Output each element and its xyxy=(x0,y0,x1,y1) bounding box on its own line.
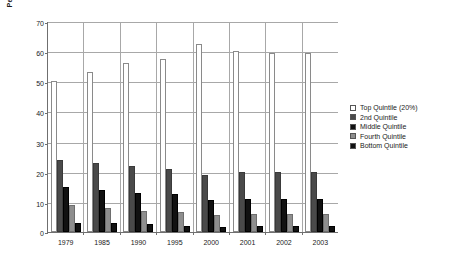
y-axis-tick-label: 30 xyxy=(36,140,44,147)
y-tick-mark xyxy=(45,233,48,234)
bar-group: 1990 xyxy=(121,22,157,232)
bar-groups: 19791985199019952000200120022003 xyxy=(48,22,338,232)
plot-area: 010203040506070 197919851990199520002001… xyxy=(47,22,338,233)
x-tick-mark xyxy=(265,232,266,235)
legend-swatch xyxy=(350,133,356,139)
x-tick-mark xyxy=(156,232,157,235)
x-tick-mark xyxy=(120,232,121,235)
legend-label: Middle Quintile xyxy=(360,123,406,130)
y-axis-tick-label: 40 xyxy=(36,110,44,117)
legend-label: Fourth Quintile xyxy=(360,133,406,140)
y-axis-title: Percentage xyxy=(6,0,13,52)
y-axis-tick-label: 0 xyxy=(40,230,44,237)
legend-label: Bottom Quintile xyxy=(360,142,408,149)
x-tick-mark xyxy=(302,232,303,235)
bar-group: 2002 xyxy=(266,22,302,232)
legend-swatch xyxy=(350,105,356,111)
x-axis-tick-label: 1979 xyxy=(58,239,74,246)
legend-swatch xyxy=(350,143,356,149)
legend-label: 2nd Quintile xyxy=(360,114,397,121)
x-axis-tick-label: 2003 xyxy=(313,239,329,246)
x-axis-tick-label: 2001 xyxy=(240,239,256,246)
bar-chart: Percentage 010203040506070 1979198519901… xyxy=(0,0,449,266)
bar-group: 2001 xyxy=(230,22,266,232)
y-axis-tick-label: 60 xyxy=(36,50,44,57)
x-tick-mark xyxy=(83,232,84,235)
bar xyxy=(293,226,299,232)
chart-legend: Top Quintile (20%)2nd QuintileMiddle Qui… xyxy=(350,104,418,149)
x-axis-tick-label: 1990 xyxy=(131,239,147,246)
x-tick-mark xyxy=(229,232,230,235)
bar xyxy=(147,224,153,232)
bar xyxy=(75,223,81,232)
bar-group: 1995 xyxy=(157,22,193,232)
bar-group: 2003 xyxy=(303,22,338,232)
bar xyxy=(184,226,190,232)
legend-item: 2nd Quintile xyxy=(350,114,418,121)
x-tick-mark xyxy=(193,232,194,235)
x-axis-tick-label: 1995 xyxy=(167,239,183,246)
bar xyxy=(220,227,226,232)
legend-item: Fourth Quintile xyxy=(350,133,418,140)
legend-item: Bottom Quintile xyxy=(350,142,418,149)
bar xyxy=(111,223,117,232)
x-axis-tick-label: 2002 xyxy=(276,239,292,246)
legend-item: Top Quintile (20%) xyxy=(350,104,418,111)
y-axis-tick-label: 20 xyxy=(36,170,44,177)
x-axis-tick-label: 1985 xyxy=(94,239,110,246)
bar xyxy=(257,226,263,232)
legend-swatch xyxy=(350,124,356,130)
legend-item: Middle Quintile xyxy=(350,123,418,130)
bar xyxy=(329,226,335,232)
legend-label: Top Quintile (20%) xyxy=(360,104,418,111)
bar-group: 1985 xyxy=(84,22,120,232)
legend-swatch xyxy=(350,114,356,120)
bar-group: 1979 xyxy=(48,22,84,232)
x-axis-tick-label: 2000 xyxy=(203,239,219,246)
y-axis-tick-label: 10 xyxy=(36,200,44,207)
y-axis-tick-label: 70 xyxy=(36,20,44,27)
y-axis-tick-label: 50 xyxy=(36,80,44,87)
bar-group: 2000 xyxy=(194,22,230,232)
